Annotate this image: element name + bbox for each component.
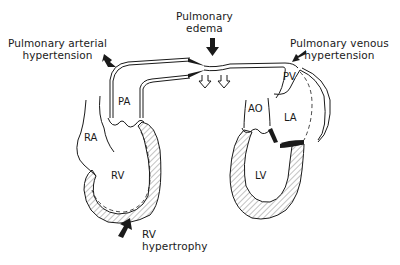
label-rv: RV [111, 170, 124, 181]
annotation-line: Pulmonary venous [290, 37, 389, 49]
annotation-line: hypertrophy [142, 240, 208, 252]
left-atrium [274, 70, 325, 140]
label-pulmonary-edema: Pulmonary edema [176, 10, 233, 34]
annotation-line: Pulmonary [176, 10, 233, 22]
label-ra: RA [84, 132, 97, 143]
mitral-valve-leaflet [268, 128, 278, 143]
label-pulmonary-arterial-hypertension: Pulmonary arterial hypertension [8, 37, 107, 61]
label-la: LA [284, 112, 297, 123]
label-pa: PA [118, 96, 130, 107]
label-pulmonary-venous-hypertension: Pulmonary venous hypertension [290, 37, 389, 61]
label-rv-hypertrophy: RV hypertrophy [142, 228, 208, 252]
edema-arrows-icon [199, 75, 230, 88]
annotation-line: hypertension [290, 49, 389, 61]
annotation-line: RV [142, 228, 208, 240]
label-ao: AO [248, 103, 263, 114]
annotation-line: edema [176, 22, 233, 34]
la-dilated-dashed [300, 72, 312, 140]
annotation-line: hypertension [8, 49, 107, 61]
label-lv: LV [255, 170, 266, 181]
label-pv: PV [283, 71, 296, 82]
annotation-line: Pulmonary arterial [8, 37, 107, 49]
pulmonary-artery-vessel [110, 58, 190, 118]
arteriole-narrowing [188, 58, 205, 66]
